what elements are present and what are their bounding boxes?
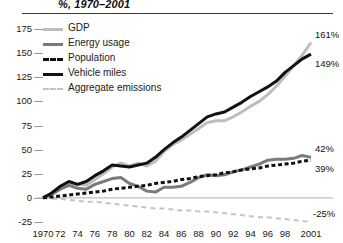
legend-label: Energy usage — [68, 37, 130, 48]
end-label-aggregate-emissions: -25% — [313, 208, 335, 219]
legend-label: Aggregate emissions — [68, 82, 161, 93]
end-label-gdp: 161% — [315, 29, 339, 40]
series-line — [43, 198, 311, 222]
series-line — [43, 160, 311, 198]
legend-swatch-icon — [43, 28, 63, 31]
legend-swatch-icon — [43, 73, 63, 76]
series-line — [43, 43, 311, 198]
end-label-energy-usage: 42% — [315, 143, 334, 154]
plot-area — [0, 0, 343, 243]
chart-container: %, 1970–2001 1751501251007550250-25 1970… — [0, 0, 343, 243]
end-label-population: 39% — [315, 163, 334, 174]
legend-swatch-icon — [43, 58, 63, 61]
legend-label: GDP — [68, 22, 90, 33]
legend-swatch-icon — [43, 43, 63, 46]
legend-swatch-icon — [43, 88, 63, 90]
end-label-vehicle-miles: 149% — [315, 58, 339, 69]
series-line — [43, 155, 311, 197]
legend-label: Vehicle miles — [68, 67, 126, 78]
legend-label: Population — [68, 52, 115, 63]
